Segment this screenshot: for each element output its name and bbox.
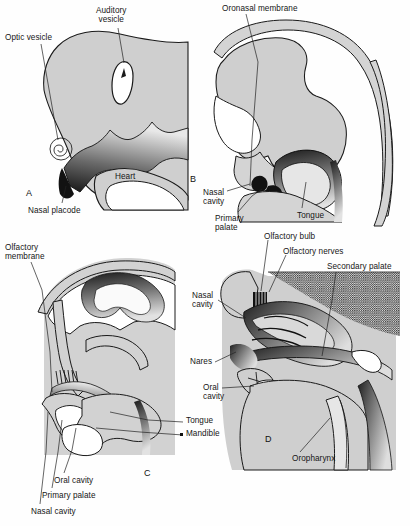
label-b-primary-palate: Primary palate [215, 214, 244, 233]
label-c-tongue: Tongue [186, 416, 213, 425]
panel-letter-d: D [265, 434, 272, 444]
label-oropharynx: Oropharynx [292, 454, 335, 463]
label-heart: Heart [115, 172, 135, 181]
label-nares: Nares [190, 357, 212, 366]
label-oronasal-membrane: Oronasal membrane [222, 4, 297, 13]
anatomy-figure: Optic vesicle Auditory vesicle Heart Nas… [0, 0, 410, 526]
panel-letter-a: A [26, 188, 32, 198]
label-c-mandible: Mandible [186, 429, 220, 438]
label-olfactory-membrane: Olfactory membrane [5, 243, 45, 262]
label-olfactory-nerves: Olfactory nerves [283, 247, 343, 256]
panel-c-artwork [31, 258, 183, 504]
label-d-nasal-cavity: Nasal cavity [192, 291, 213, 310]
label-b-tongue: Tongue [297, 211, 324, 220]
label-b-nasal-cavity: Nasal cavity [203, 188, 224, 207]
panel-d-artwork [215, 240, 400, 470]
label-c-primary-palate: Primary palate [42, 491, 95, 500]
panel-b-artwork [214, 14, 393, 226]
label-c-oral-cavity: Oral cavity [54, 476, 93, 485]
label-optic-vesicle: Optic vesicle [5, 33, 52, 42]
label-c-nasal-cavity: Nasal cavity [31, 507, 76, 516]
label-nasal-placode: Nasal placode [28, 206, 81, 215]
label-auditory-vesicle: Auditory vesicle [96, 6, 126, 25]
panel-letter-b: B [190, 174, 196, 184]
panel-a-artwork [41, 28, 188, 210]
label-olfactory-bulb: Olfactory bulb [264, 232, 315, 241]
panel-letter-c: C [144, 468, 151, 478]
label-secondary-palate: Secondary palate [327, 262, 392, 271]
label-d-oral-cavity: Oral cavity [203, 383, 224, 402]
